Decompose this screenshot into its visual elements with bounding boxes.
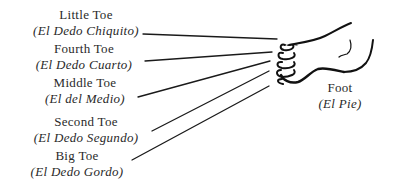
foot-drawing: [277, 23, 373, 84]
leader-line-second-toe: [152, 71, 269, 131]
label-spanish: (El Dedo Cuarto): [22, 57, 146, 73]
label-foot: Foot (El Pie): [310, 80, 370, 112]
leader-line-fourth-toe: [145, 52, 272, 61]
label-english: Middle Toe: [30, 75, 140, 91]
label-english: Foot: [310, 80, 370, 96]
label-spanish: (El Dedo Segundo): [20, 130, 152, 146]
leader-line-little-toe: [143, 34, 277, 39]
label-english: Big Toe: [18, 148, 136, 164]
label-english: Little Toe: [20, 7, 152, 23]
leader-line-middle-toe: [138, 61, 270, 97]
label-middle-toe: Middle Toe (El del Medio): [30, 75, 140, 107]
leader-line-big-toe: [132, 86, 269, 160]
label-fourth-toe: Fourth Toe (El Dedo Cuarto): [22, 41, 146, 73]
label-spanish: (El del Medio): [30, 91, 140, 107]
label-english: Fourth Toe: [22, 41, 146, 57]
label-spanish: (El Dedo Chiquito): [20, 23, 152, 39]
label-spanish: (El Dedo Gordo): [18, 164, 136, 180]
label-second-toe: Second Toe (El Dedo Segundo): [20, 114, 152, 146]
label-english: Second Toe: [20, 114, 152, 130]
label-big-toe: Big Toe (El Dedo Gordo): [18, 148, 136, 180]
label-little-toe: Little Toe (El Dedo Chiquito): [20, 7, 152, 39]
label-spanish: (El Pie): [310, 96, 370, 112]
